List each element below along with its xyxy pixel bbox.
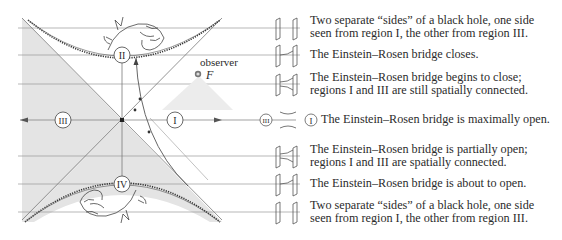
svg-text:III: III: [263, 117, 271, 125]
caption-line: seen from region I, the other from regio…: [310, 27, 534, 40]
caption-row-1: Two separate “sides” of a black hole, on…: [310, 14, 534, 40]
caption-line: The Einstein–Rosen bridge closes.: [310, 48, 479, 61]
svg-text:I: I: [173, 115, 176, 126]
region-label-I: I: [167, 112, 183, 128]
caption-row-5: The Einstein–Rosen bridge is partially o…: [310, 143, 528, 169]
observer-symbol: F: [205, 68, 214, 82]
svg-text:I: I: [310, 116, 313, 126]
dragon-top-icon: [104, 17, 164, 50]
region-label-III: III: [55, 112, 71, 128]
caption-line: regions I and III are spatially connecte…: [310, 156, 528, 169]
wormhole-glyphs: [276, 18, 297, 224]
arrow-right-icon: [214, 118, 222, 123]
caption-row-7: Two separate “sides” of a black hole, on…: [310, 199, 534, 225]
observer-label: observer: [200, 56, 238, 68]
caption-row-4: The Einstein–Rosen bridge is maximally o…: [321, 113, 550, 126]
caption-row-6: The Einstein–Rosen bridge is about to op…: [310, 177, 526, 190]
region-label-II: II: [114, 47, 130, 63]
svg-text:II: II: [119, 50, 126, 61]
caption-line: The Einstein–Rosen bridge is about to op…: [310, 177, 526, 190]
caption-line: regions I and III are still spatially co…: [310, 84, 528, 97]
caption-line: seen from region I, the other from regio…: [310, 212, 534, 225]
region-label-IV: IV: [114, 176, 130, 192]
svg-text:III: III: [59, 116, 68, 126]
inline-marker-III: III: [260, 114, 272, 126]
caption-line: The Einstein–Rosen bridge is maximally o…: [321, 113, 550, 126]
bifurcation-point: [120, 118, 124, 122]
svg-text:IV: IV: [117, 179, 128, 190]
observer-cone: [162, 71, 233, 110]
inline-marker-I: I: [305, 114, 317, 126]
caption-row-2: The Einstein–Rosen bridge closes.: [310, 48, 479, 61]
caption-row-3: The Einstein–Rosen bridge begins to clos…: [310, 71, 528, 97]
